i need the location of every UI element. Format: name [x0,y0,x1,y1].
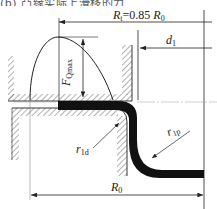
label-r0: R0 [111,181,122,195]
r1d-leader [93,123,119,148]
label-r1d: r1d [76,143,89,157]
die [11,108,127,176]
label-d1: d1 [166,34,176,48]
forming-diagram [0,0,217,209]
label-rt: Rt=0.85 R0 [113,9,165,23]
label-fqmax: FQmax [60,59,74,86]
diagram-canvas: (b) 凸缘实际上滑移的力 [0,0,217,209]
